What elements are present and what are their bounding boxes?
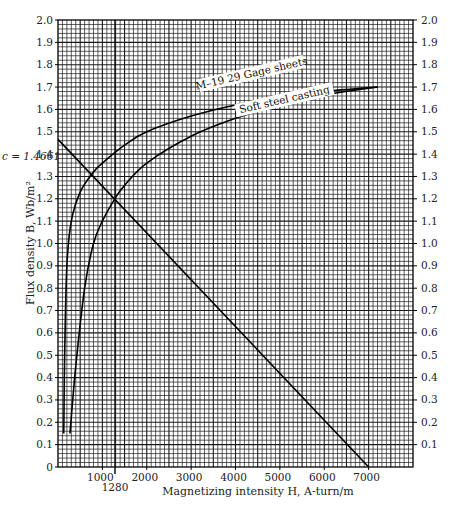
grid — [58, 20, 413, 467]
y-axis-left: 00.10.20.30.40.50.60.70.80.91.01.11.21.3… — [36, 14, 58, 473]
h-1280-label: 1280 — [102, 481, 129, 493]
y-tick-label-right: 1.2 — [421, 192, 438, 204]
y-tick-label: 1.6 — [36, 103, 53, 115]
y-tick-label: 0 — [46, 461, 53, 473]
y-tick-label-right: 0.3 — [421, 393, 438, 405]
y-tick-label: 0.6 — [36, 326, 53, 338]
y-tick-label: 0.7 — [36, 304, 53, 316]
y-tick-label-right: 0.4 — [421, 371, 438, 383]
y-tick-label-right: 0.8 — [421, 282, 438, 294]
x-axis-title: Magnetizing intensity H, A-turn/m — [162, 485, 354, 498]
y-tick-label-right: 0.2 — [421, 416, 438, 428]
y-tick-label: 1.5 — [36, 125, 53, 137]
y-axis-title: Flux density B, Wb/m² — [24, 181, 37, 305]
x-tick-label: 5000 — [265, 471, 292, 483]
y-tick-label: 1.8 — [36, 58, 53, 70]
y-tick-label-right: 1.9 — [421, 36, 438, 48]
y-tick-label-right: 1.6 — [421, 103, 438, 115]
y-tick-label-right: 1.7 — [421, 81, 438, 93]
x-tick-label: 7000 — [353, 471, 380, 483]
y-tick-label: 1.9 — [36, 36, 53, 48]
y-tick-label-right: 1.5 — [421, 125, 438, 137]
y-tick-label: 0.4 — [36, 371, 53, 383]
y-tick-label-right: 0.6 — [421, 326, 438, 338]
y-tick-label: 1.2 — [36, 192, 53, 204]
y-axis-right: 0.10.20.30.40.50.60.70.80.91.01.11.21.31… — [413, 14, 438, 451]
x-tick-label: 6000 — [309, 471, 336, 483]
x-tick-label: 2000 — [131, 471, 158, 483]
c-intercept-label: c = 1.4661 — [2, 150, 60, 162]
y-tick-label-right: 1.1 — [421, 215, 438, 227]
bh-chart: M–19 29 Gage sheets Soft steel casting 0… — [0, 0, 450, 513]
y-tick-label-right: 0.7 — [421, 304, 438, 316]
y-tick-label-right: 1.0 — [421, 237, 438, 249]
y-tick-label: 1.7 — [36, 81, 53, 93]
x-tick-label: 3000 — [176, 471, 203, 483]
y-tick-label: 0.5 — [36, 349, 53, 361]
y-tick-label: 1.1 — [36, 215, 53, 227]
y-tick-label: 1.0 — [36, 237, 53, 249]
y-tick-label: 1.3 — [36, 170, 53, 182]
y-tick-label: 0.8 — [36, 282, 53, 294]
y-tick-label-right: 0.9 — [421, 259, 438, 271]
y-tick-label: 0.1 — [36, 438, 53, 450]
y-tick-label: 0.2 — [36, 416, 53, 428]
y-tick-label: 2.0 — [36, 14, 53, 26]
y-tick-label-right: 0.1 — [421, 438, 438, 450]
y-tick-label-right: 1.4 — [421, 148, 438, 160]
y-tick-label-right: 1.3 — [421, 170, 438, 182]
x-axis: 1000200030004000500060007000 — [87, 467, 380, 483]
y-tick-label: 0.9 — [36, 259, 53, 271]
y-tick-label: 0.3 — [36, 393, 53, 405]
y-tick-label-right: 1.8 — [421, 58, 438, 70]
x-tick-label: 4000 — [220, 471, 247, 483]
y-tick-label-right: 0.5 — [421, 349, 438, 361]
y-tick-label-right: 2.0 — [421, 14, 438, 26]
